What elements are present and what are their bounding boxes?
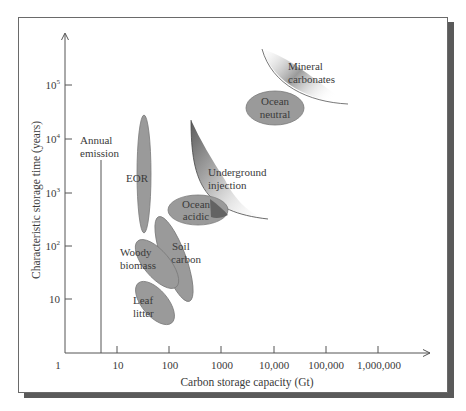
svg-text:litter: litter xyxy=(133,307,154,319)
svg-text:10: 10 xyxy=(49,293,61,305)
svg-text:103: 103 xyxy=(46,186,61,199)
svg-text:Underground: Underground xyxy=(208,166,267,178)
svg-text:100,000: 100,000 xyxy=(308,359,344,371)
svg-text:1000: 1000 xyxy=(211,359,234,371)
region-ocean-acidic: Ocean acidic xyxy=(168,195,228,225)
svg-text:acidic: acidic xyxy=(183,210,209,222)
svg-text:10: 10 xyxy=(113,359,125,371)
annual-emission-marker: Annual emission xyxy=(80,134,120,353)
svg-text:carbonates: carbonates xyxy=(288,73,335,85)
svg-text:EOR: EOR xyxy=(126,172,149,184)
svg-text:Soil: Soil xyxy=(172,240,190,252)
svg-text:biomass: biomass xyxy=(120,259,156,271)
svg-text:1,000,000: 1,000,000 xyxy=(357,359,402,371)
y-tick-labels: 105 104 103 102 10 xyxy=(46,78,61,305)
svg-text:100: 100 xyxy=(162,359,179,371)
svg-text:104: 104 xyxy=(46,132,61,145)
svg-text:carbon: carbon xyxy=(171,253,201,265)
svg-text:10,000: 10,000 xyxy=(259,359,290,371)
svg-text:Ocean: Ocean xyxy=(261,95,290,107)
svg-text:Annual: Annual xyxy=(80,134,112,146)
svg-text:injection: injection xyxy=(208,179,247,191)
x-ticks xyxy=(117,346,378,353)
svg-text:102: 102 xyxy=(46,239,61,252)
x-tick-labels: 1 10 100 1000 10,000 100,000 1,000,000 xyxy=(55,359,401,371)
svg-text:105: 105 xyxy=(46,78,61,91)
svg-text:neutral: neutral xyxy=(260,108,291,120)
svg-text:emission: emission xyxy=(80,147,120,159)
svg-text:1: 1 xyxy=(55,359,61,371)
x-axis-title: Carbon storage capacity (Gt) xyxy=(180,376,313,389)
region-ocean-neutral: Ocean neutral xyxy=(246,91,304,125)
region-eor: EOR xyxy=(126,115,151,233)
svg-text:Ocean: Ocean xyxy=(182,198,211,210)
svg-text:Woody: Woody xyxy=(120,246,152,258)
chart-plot: 105 104 103 102 10 1 10 100 1000 10,000 … xyxy=(0,0,466,411)
svg-text:Leaf: Leaf xyxy=(133,294,153,306)
y-ticks xyxy=(65,85,72,299)
y-axis-title: Characteristic storage time (years) xyxy=(30,121,43,279)
svg-text:Mineral: Mineral xyxy=(288,60,323,72)
x-axis xyxy=(65,350,430,357)
